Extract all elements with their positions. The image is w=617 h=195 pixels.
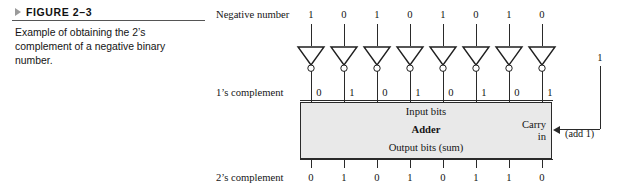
bit-twos-complement: 1 xyxy=(338,172,350,184)
wire-input xyxy=(311,24,312,46)
row-label-ones-complement: 1’s complement xyxy=(216,87,283,98)
bit-negative-number: 0 xyxy=(338,9,350,21)
wire-output-sum xyxy=(443,159,444,168)
bit-ones-complement: 0 xyxy=(445,87,457,99)
wire-ones-complement xyxy=(410,71,411,102)
figure-page: FIGURE 2–3 Example of obtaining the 2’s … xyxy=(0,0,617,195)
bit-twos-complement: 1 xyxy=(503,172,515,184)
bus-line-ones-complement xyxy=(300,100,553,101)
figure-caption: Example of obtaining the 2’s complement … xyxy=(12,26,191,69)
bit-twos-complement: 0 xyxy=(437,172,449,184)
wire-input xyxy=(542,24,543,46)
bit-negative-number: 1 xyxy=(437,9,449,21)
row-label-twos-complement: 2’s complement xyxy=(216,172,283,183)
carry-in-bit-value: 1 xyxy=(594,52,606,63)
bit-negative-number: 1 xyxy=(371,9,383,21)
caption-block: FIGURE 2–3 Example of obtaining the 2’s … xyxy=(12,6,208,69)
wire-ones-complement xyxy=(344,71,345,102)
carry-in-label: Carry in xyxy=(522,119,546,143)
wire-ones-complement xyxy=(443,71,444,102)
bit-twos-complement: 0 xyxy=(371,172,383,184)
wire-carry-feedback-vertical xyxy=(600,66,601,129)
adder-block: Input bits Adder Output bits (sum) Carry… xyxy=(300,102,552,159)
inverter-triangle-icon xyxy=(462,46,490,74)
wire-output-sum xyxy=(377,159,378,168)
inverter-triangle-icon xyxy=(429,46,457,74)
bit-ones-complement: 1 xyxy=(544,87,556,99)
adder-input-bits-label: Input bits xyxy=(301,106,551,117)
bit-ones-complement: 0 xyxy=(511,87,523,99)
arrow-left-icon xyxy=(553,126,560,134)
adder-output-bits-label: Output bits (sum) xyxy=(301,142,551,153)
adder-title: Adder xyxy=(301,124,551,135)
wire-ones-complement xyxy=(542,71,543,102)
bit-ones-complement: 1 xyxy=(412,87,424,99)
bit-ones-complement: 0 xyxy=(379,87,391,99)
bit-ones-complement: 0 xyxy=(313,87,325,99)
wire-output-sum xyxy=(476,159,477,168)
inverter-triangle-icon xyxy=(528,46,556,74)
bit-twos-complement: 1 xyxy=(404,172,416,184)
wire-input xyxy=(509,24,510,46)
figure-header: FIGURE 2–3 xyxy=(12,6,208,18)
wire-ones-complement xyxy=(377,71,378,102)
wire-input xyxy=(476,24,477,46)
carry-in-line1: Carry xyxy=(522,119,546,131)
bus-line-output-sum xyxy=(300,159,553,160)
bit-ones-complement: 1 xyxy=(478,87,490,99)
caption-divider xyxy=(12,20,205,21)
carry-in-line2: in xyxy=(522,131,546,143)
inverter-triangle-icon xyxy=(495,46,523,74)
circuit-diagram: Negative number 1’s complement 2’s compl… xyxy=(208,0,617,195)
wire-output-sum xyxy=(410,159,411,168)
inverter-triangle-icon xyxy=(396,46,424,74)
bit-negative-number: 1 xyxy=(503,9,515,21)
bit-twos-complement: 1 xyxy=(470,172,482,184)
wire-output-sum xyxy=(509,159,510,168)
row-label-negative-number: Negative number xyxy=(216,9,289,20)
add-one-label: (add 1) xyxy=(565,128,594,139)
wire-ones-complement xyxy=(476,71,477,102)
bit-negative-number: 1 xyxy=(305,9,317,21)
wire-output-sum xyxy=(344,159,345,168)
bit-ones-complement: 1 xyxy=(346,87,358,99)
wire-input xyxy=(377,24,378,46)
figure-label: FIGURE 2–3 xyxy=(26,6,92,18)
wire-input xyxy=(344,24,345,46)
bit-twos-complement: 0 xyxy=(305,172,317,184)
bit-negative-number: 0 xyxy=(536,9,548,21)
wire-ones-complement xyxy=(311,71,312,102)
bit-negative-number: 0 xyxy=(404,9,416,21)
inverter-triangle-icon xyxy=(363,46,391,74)
inverter-triangle-icon xyxy=(330,46,358,74)
triangle-right-icon xyxy=(15,8,21,16)
wire-input xyxy=(410,24,411,46)
bit-negative-number: 0 xyxy=(470,9,482,21)
wire-input xyxy=(443,24,444,46)
inverter-triangle-icon xyxy=(297,46,325,74)
wire-output-sum xyxy=(542,159,543,168)
wire-output-sum xyxy=(311,159,312,168)
bit-twos-complement: 0 xyxy=(536,172,548,184)
wire-ones-complement xyxy=(509,71,510,102)
